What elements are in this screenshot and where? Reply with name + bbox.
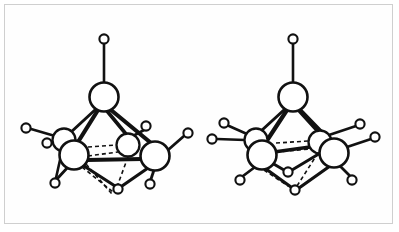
figure-page [0, 0, 399, 232]
left-molecular-cluster [21, 34, 192, 194]
hidden-bond-front-left-to-back-right-lower [88, 152, 118, 156]
structures-group [21, 34, 379, 194]
bond-back-left-hydrogen-outer [217, 139, 245, 140]
bond-back-left-hydrogen-upper [31, 129, 55, 136]
metal-atom-back-right[interactable] [117, 134, 140, 157]
metal-atom-front-right[interactable] [141, 142, 170, 171]
metal-atom-front-left[interactable] [60, 141, 89, 170]
bond-front-left-to-bridge [84, 166, 115, 186]
bond-front-left-hydrogen-bottom [243, 167, 255, 176]
terminal-hydrogen-left-upper[interactable] [21, 123, 30, 132]
bond-front-right-hydrogen-outer [168, 136, 184, 150]
bridging-hydrogen-upper[interactable] [283, 167, 292, 176]
hidden-bond-front-left-to-back-right-upper [88, 145, 117, 147]
terminal-hydrogen-left-lower[interactable] [42, 138, 51, 147]
terminal-hydrogen-left-outer[interactable] [207, 134, 216, 143]
terminal-hydrogen-right-outer[interactable] [370, 132, 379, 141]
apex-terminal-hydrogen[interactable] [288, 34, 297, 43]
bond-back-right-hydrogen-upper [329, 126, 356, 135]
bridging-hydrogen-bottom[interactable] [113, 184, 122, 193]
bond-apex-to-back-right [298, 110, 318, 132]
bond-bridge-upper-to-front-right [292, 152, 322, 170]
apex-metal-atom[interactable] [90, 83, 119, 112]
metal-atom-front-left[interactable] [248, 141, 277, 170]
right-molecular-cluster [207, 34, 379, 194]
hidden-bond-core-upper [276, 141, 309, 143]
terminal-hydrogen-right-upper[interactable] [355, 119, 364, 128]
bond-front-right-hydrogen-outer [347, 139, 371, 147]
bond-bridge-lower-to-front-right [299, 166, 330, 188]
terminal-hydrogen-bottom-right[interactable] [347, 175, 356, 184]
bond-back-left-hydrogen-upper [229, 126, 247, 134]
bond-front-right-to-bridge [122, 168, 148, 186]
bridging-hydrogen-lower[interactable] [290, 185, 299, 194]
apex-metal-atom[interactable] [279, 83, 308, 112]
terminal-hydrogen-left-upper[interactable] [219, 118, 228, 127]
hidden-bond-front-left-to-lower-bridge [82, 167, 113, 192]
terminal-hydrogen-right-outer[interactable] [183, 128, 192, 137]
terminal-hydrogen-bottom-left[interactable] [235, 175, 244, 184]
terminal-hydrogen-bottom-right[interactable] [145, 179, 154, 188]
molecular-structures-diagram [0, 0, 399, 232]
terminal-hydrogen-bottom-left[interactable] [50, 178, 59, 187]
bond-front-left-to-front-right [87, 159, 142, 160]
bond-front-right-hydrogen-bottom [340, 166, 350, 176]
metal-atom-front-right[interactable] [320, 139, 349, 168]
apex-terminal-hydrogen[interactable] [99, 34, 108, 43]
terminal-hydrogen-right-upper[interactable] [141, 121, 150, 130]
